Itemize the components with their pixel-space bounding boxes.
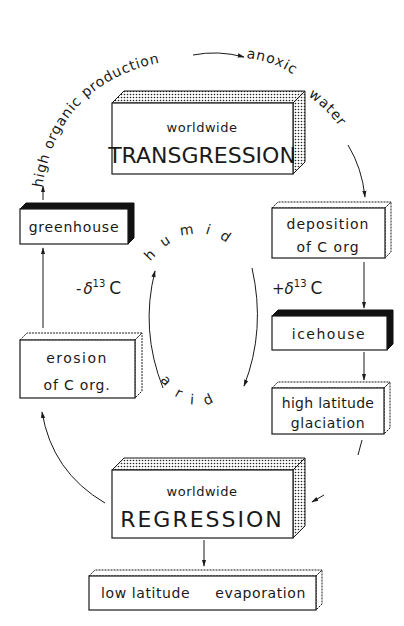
erosion-label-line2: of C org. [44,377,111,393]
regression-box: worldwide REGRESSION [112,458,305,538]
icehouse-box: icehouse [272,310,393,350]
carbon-cycle-diagram: worldwide TRANSGRESSION greenhouse depos… [0,0,404,626]
icehouse-label: icehouse [292,326,366,342]
deposition-box: deposition of C org [272,202,391,258]
arrow-regression-to-erosion [42,412,105,503]
evaporation-box: low latitude evaporation [89,570,322,610]
glaciation-label-line1: high latitude [282,395,375,411]
arrow-into-regression [312,495,324,502]
glaciation-box: high latitude glaciation [272,382,390,434]
transgression-box: worldwide TRANSGRESSION [107,91,305,174]
arrow-humid-to-arid [244,268,257,386]
evaporation-label-part1: low latitude [101,585,190,601]
greenhouse-box: greenhouse [20,203,134,244]
deposition-label-line2: of C org [296,239,359,255]
inner-climate-loop [149,268,257,388]
arrow-arid-to-humid [149,271,163,388]
label-anoxic: anoxic [246,45,301,77]
regression-label-line2: REGRESSION [120,507,284,532]
transgression-label-line2: TRANSGRESSION [107,143,296,168]
arrow-production-to-anoxic [193,53,244,57]
label-arid: arid [158,371,226,408]
arrow-water-to-deposition [348,145,365,197]
erosion-box: erosion of C org. [20,333,142,398]
evaporation-label-part2: evaporation [215,585,306,601]
line-glaciation-to-regression [358,440,362,455]
label-humid: humid [141,219,243,263]
transgression-label-line1: worldwide [167,120,238,135]
isotope-negative-label: -δ13C [76,278,121,298]
deposition-label-line1: deposition [287,216,370,232]
isotope-positive-label: +δ13C [272,278,322,298]
greenhouse-label: greenhouse [29,219,120,235]
erosion-label-line1: erosion [46,350,108,366]
glaciation-label-line2: glaciation [291,415,365,431]
label-water: water [306,85,350,129]
svg-text:+δ13C: +δ13C [272,278,322,298]
svg-text:-δ13C: -δ13C [76,278,121,298]
regression-label-line1: worldwide [167,484,238,499]
